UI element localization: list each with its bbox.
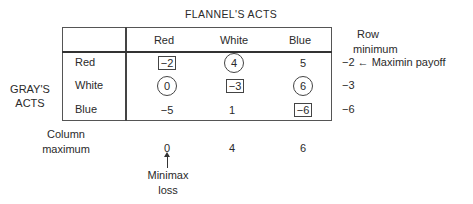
boxed-value: −6 bbox=[294, 103, 313, 117]
grays-acts-line-2: ACTS bbox=[8, 96, 52, 110]
row-label-red: Red bbox=[75, 56, 95, 68]
row-label-divider bbox=[125, 27, 127, 121]
up-arrow-icon bbox=[164, 152, 170, 157]
cell-white-blue: 6 bbox=[283, 79, 323, 96]
minimax-line-1: Minimax bbox=[133, 168, 203, 183]
grays-acts-label: GRAY'S ACTS bbox=[8, 82, 52, 110]
row-minimum-value: −2 bbox=[342, 56, 355, 68]
grays-acts-line-1: GRAY'S bbox=[8, 82, 52, 96]
maximin-payoff-annotation: ← Maximin payoff bbox=[358, 56, 446, 68]
row-minimum-line-1: Row bbox=[353, 27, 398, 42]
column-maximum-label: Column maximum bbox=[34, 127, 98, 157]
row-minimum-red: −2 ← Maximin payoff bbox=[342, 56, 445, 68]
header-divider bbox=[62, 51, 332, 53]
row-minimum-line-2: minimum bbox=[353, 42, 398, 57]
cell-blue-red: −5 bbox=[147, 103, 187, 117]
minimax-line-2: loss bbox=[133, 183, 203, 198]
circled-value: 0 bbox=[157, 76, 177, 96]
cell-white-white: −3 bbox=[215, 79, 255, 93]
column-header-white: White bbox=[214, 33, 254, 47]
row-minimum-blue: −6 bbox=[342, 103, 355, 115]
cell-red-red: −2 bbox=[147, 56, 187, 70]
column-maximum-line-2: maximum bbox=[34, 142, 98, 157]
circled-value: 4 bbox=[224, 53, 244, 73]
row-minimum-white: −3 bbox=[342, 79, 355, 91]
cell-red-blue: 5 bbox=[283, 56, 323, 70]
minimax-loss-annotation: Minimax loss bbox=[133, 168, 203, 198]
column-maximum-line-1: Column bbox=[34, 127, 98, 142]
flannels-acts-title: FLANNEL'S ACTS bbox=[185, 8, 277, 20]
column-maximum-blue: 6 bbox=[283, 141, 323, 155]
row-label-blue: Blue bbox=[75, 103, 97, 115]
boxed-value: −2 bbox=[158, 56, 177, 70]
row-label-white: White bbox=[75, 79, 103, 91]
cell-blue-white: 1 bbox=[212, 103, 252, 117]
row-minimum-header: Row minimum bbox=[353, 27, 398, 57]
circled-value: 6 bbox=[293, 76, 313, 96]
column-header-blue: Blue bbox=[280, 33, 320, 47]
boxed-value: −3 bbox=[226, 79, 245, 93]
column-maximum-white: 4 bbox=[212, 141, 252, 155]
cell-white-red: 0 bbox=[147, 79, 187, 96]
column-header-red: Red bbox=[144, 33, 184, 47]
cell-blue-blue: −6 bbox=[283, 103, 323, 117]
cell-red-white: 4 bbox=[214, 56, 254, 73]
